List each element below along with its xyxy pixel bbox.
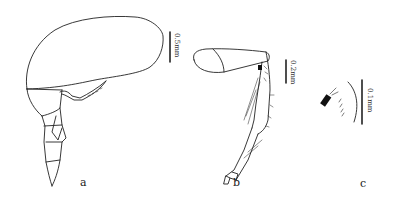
panel-label-a: a [80, 176, 87, 189]
panel-b-drawing [194, 49, 275, 184]
scale-bar-a-label: 0.5mm [173, 33, 181, 57]
panel-c-drawing [320, 82, 357, 122]
scale-bar-c-label: 0.1mm [366, 88, 374, 112]
panel-label-b: b [233, 176, 240, 189]
scale-bar-b-label: 0.2mm [289, 60, 297, 84]
panel-label-c: c [360, 177, 366, 190]
illustration-svg [0, 0, 394, 204]
panel-a-drawing [26, 16, 163, 186]
